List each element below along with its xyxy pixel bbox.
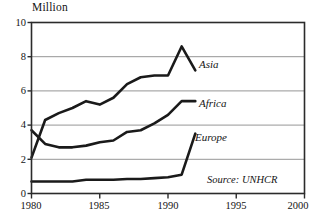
plot-canvas <box>0 0 319 219</box>
series-line-africa <box>32 101 196 147</box>
refugees-line-chart: Million 10 8 6 4 2 0 1980 1985 1990 1995… <box>0 0 319 219</box>
series-lines <box>32 46 196 181</box>
